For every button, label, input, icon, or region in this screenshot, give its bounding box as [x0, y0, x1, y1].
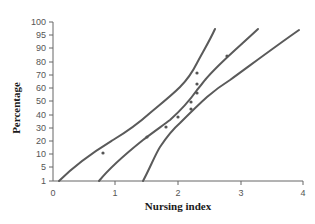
y-tick-label: 1	[41, 176, 46, 186]
data-point	[176, 115, 179, 118]
x-tick-label: 2	[175, 188, 180, 198]
x-tick-labels: 0 1 2 3 4	[50, 188, 305, 198]
data-point	[189, 100, 192, 103]
data-point	[145, 135, 148, 138]
y-tick-label: 80	[36, 57, 46, 67]
x-tick-label: 0	[50, 188, 55, 198]
y-ticks	[49, 22, 53, 181]
y-tick-label: 10	[36, 149, 46, 159]
data-point	[101, 151, 104, 154]
y-tick-label: 50	[36, 96, 46, 106]
x-tick-label: 1	[112, 188, 117, 198]
y-tick-labels: 100 95 90 80 70 60 50 40 30 20 10 5 1	[31, 17, 46, 186]
y-axis-title: Percentage	[10, 82, 22, 134]
data-point	[195, 91, 198, 94]
upper-band-curve	[59, 29, 215, 181]
lower-band-curve	[143, 30, 299, 181]
y-tick-label: 60	[36, 83, 46, 93]
data-point	[189, 107, 192, 110]
y-tick-label: 40	[36, 110, 46, 120]
y-tick-label: 5	[41, 162, 46, 172]
data-point	[164, 125, 167, 128]
y-tick-label: 30	[36, 123, 46, 133]
fitted-line-curve	[99, 29, 258, 181]
y-tick-label: 70	[36, 70, 46, 80]
y-tick-label: 20	[36, 136, 46, 146]
y-tick-label: 100	[31, 17, 46, 27]
y-tick-label: 90	[36, 43, 46, 53]
probability-plot: 100 95 90 80 70 60 50 40 30 20 10 5 1 0 …	[0, 0, 315, 224]
x-tick-label: 4	[300, 188, 305, 198]
y-tick-label: 95	[36, 30, 46, 40]
x-axis-title: Nursing index	[145, 200, 212, 212]
x-tick-label: 3	[238, 188, 243, 198]
data-point	[195, 82, 198, 85]
data-point	[225, 54, 228, 57]
data-point	[195, 71, 198, 74]
